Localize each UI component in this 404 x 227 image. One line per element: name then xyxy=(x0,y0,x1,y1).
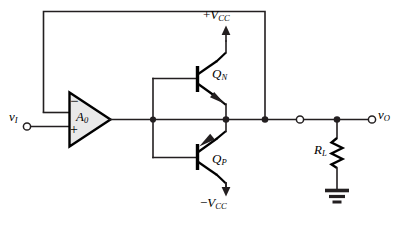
base-rail-junction xyxy=(150,116,156,122)
input-terminal[interactable] xyxy=(23,123,30,130)
supply-negative-arrow xyxy=(222,183,231,197)
transistor-qn-label: QN xyxy=(212,67,227,80)
output-label: vO xyxy=(378,108,390,121)
supply-negative-label: −VCC xyxy=(200,196,227,209)
transistor-qp-label: QP xyxy=(212,152,227,165)
schematic-canvas xyxy=(0,0,404,227)
output-node-terminal[interactable] xyxy=(296,116,303,123)
input-label: vI xyxy=(9,110,18,123)
supply-positive-arrow xyxy=(222,26,231,42)
feedback-tap-junction xyxy=(262,116,269,123)
supply-positive-label: +VCC xyxy=(203,8,230,21)
circuit-diagram: vI vO A0 − + +VCC −VCC QN QP RL xyxy=(0,0,404,227)
base-rail-wire xyxy=(153,79,196,158)
inverting-input-sign: − xyxy=(70,94,78,109)
noninverting-input-sign: + xyxy=(70,123,78,137)
ground-symbol xyxy=(325,191,349,203)
load-resistor-label: RL xyxy=(314,143,327,156)
output-terminal[interactable] xyxy=(368,116,375,123)
load-resistor[interactable] xyxy=(332,120,343,190)
